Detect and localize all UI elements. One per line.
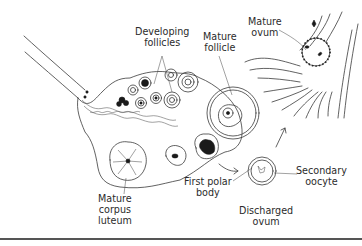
bottom-divider: [0, 238, 362, 240]
label-mature-follicle: Mature follicle: [203, 31, 237, 53]
leader-line: [154, 56, 162, 84]
mature-corpus-luteum: [110, 142, 147, 181]
ovary-diagram: Developing follicles Mature follicle Mat…: [0, 0, 362, 246]
mature-follicle: [207, 87, 259, 139]
developing-follicles: [117, 69, 198, 109]
label-secondary-oocyte: Secondary oocyte: [296, 165, 347, 187]
discharged-ovum: [248, 157, 276, 185]
label-first-polar-body: First polar body: [184, 176, 232, 198]
label-mature-ovum: Mature ovum: [248, 16, 282, 38]
label-discharged-ovum: Discharged ovum: [239, 205, 293, 227]
ligament-line: [24, 36, 85, 90]
label-developing-follicles: Developing follicles: [135, 26, 189, 48]
label-mature-corpus-luteum: Mature corpus luteum: [98, 193, 132, 226]
